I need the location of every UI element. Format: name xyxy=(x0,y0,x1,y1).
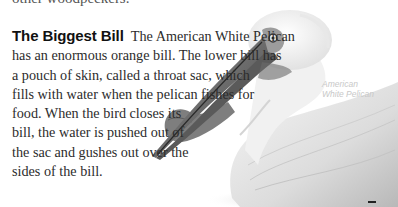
article-line: food. When the bird closes its xyxy=(12,104,295,123)
article-heading: The Biggest Bill xyxy=(12,27,124,44)
article-line: bill, the water is pushed out of xyxy=(12,123,295,142)
article-body: The Biggest Bill The American White Peli… xyxy=(12,26,295,181)
article-line: The American White Pelican xyxy=(131,28,295,44)
book-page: other woodpeckers. xyxy=(0,0,398,207)
photo-caption: American White Pelican xyxy=(322,80,374,99)
article-first-line: The Biggest Bill The American White Peli… xyxy=(12,26,295,46)
article-line: a pouch of skin, called a throat sac, wh… xyxy=(12,66,295,85)
article-line: has an enormous orange bill. The lower b… xyxy=(12,46,295,65)
article-line: the sac and gushes out over the xyxy=(12,143,295,162)
article-line: fills with water when the pelican fishes… xyxy=(12,85,295,104)
article-line: sides of the bill. xyxy=(12,162,295,181)
caption-line: White Pelican xyxy=(322,90,374,100)
